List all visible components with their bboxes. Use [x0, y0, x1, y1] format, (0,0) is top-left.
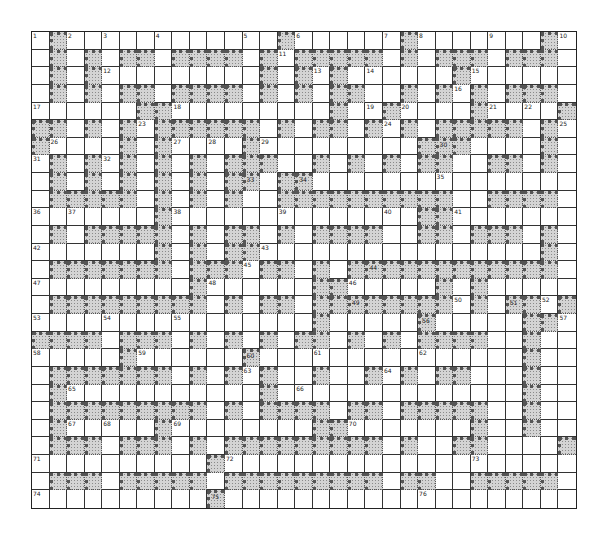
grid-cell[interactable] [172, 67, 190, 85]
grid-cell[interactable] [190, 208, 208, 226]
grid-cell[interactable] [506, 332, 524, 350]
grid-cell[interactable] [506, 490, 524, 508]
grid-cell[interactable] [401, 490, 419, 508]
grid-cell[interactable] [401, 314, 419, 332]
grid-cell[interactable] [155, 50, 173, 68]
grid-cell[interactable] [32, 173, 50, 191]
grid-cell[interactable] [207, 244, 225, 262]
grid-cell[interactable]: 11 [278, 50, 296, 68]
grid-cell[interactable] [453, 420, 471, 438]
grid-cell[interactable] [348, 385, 366, 403]
grid-cell[interactable] [225, 314, 243, 332]
grid-cell[interactable] [488, 490, 506, 508]
grid-cell[interactable] [295, 420, 313, 438]
grid-cell[interactable] [155, 67, 173, 85]
grid-cell[interactable] [85, 385, 103, 403]
grid-cell[interactable] [558, 490, 576, 508]
grid-cell[interactable] [383, 420, 401, 438]
grid-cell[interactable] [488, 402, 506, 420]
grid-cell[interactable] [67, 67, 85, 85]
grid-cell[interactable] [436, 349, 454, 367]
grid-cell[interactable] [488, 385, 506, 403]
grid-cell[interactable] [506, 208, 524, 226]
grid-cell[interactable]: 46 [348, 279, 366, 297]
grid-cell[interactable]: 73 [471, 455, 489, 473]
grid-cell[interactable] [225, 349, 243, 367]
grid-cell[interactable] [541, 173, 559, 191]
grid-cell[interactable]: 52 [541, 296, 559, 314]
grid-cell[interactable] [155, 85, 173, 103]
grid-cell[interactable] [32, 420, 50, 438]
grid-cell[interactable]: 35 [436, 173, 454, 191]
grid-cell[interactable] [67, 279, 85, 297]
grid-cell[interactable] [453, 314, 471, 332]
grid-cell[interactable] [558, 67, 576, 85]
grid-cell[interactable] [67, 226, 85, 244]
grid-cell[interactable] [102, 120, 120, 138]
grid-cell[interactable] [348, 455, 366, 473]
grid-cell[interactable] [102, 332, 120, 350]
grid-cell[interactable] [295, 120, 313, 138]
grid-cell[interactable] [348, 103, 366, 121]
grid-cell[interactable] [243, 420, 261, 438]
grid-cell[interactable] [471, 208, 489, 226]
grid-cell[interactable] [260, 103, 278, 121]
grid-cell[interactable] [523, 155, 541, 173]
grid-cell[interactable]: 7 [383, 32, 401, 50]
grid-cell[interactable] [172, 349, 190, 367]
grid-cell[interactable] [418, 367, 436, 385]
grid-cell[interactable] [207, 173, 225, 191]
grid-cell[interactable] [453, 349, 471, 367]
grid-cell[interactable] [471, 244, 489, 262]
grid-cell[interactable] [330, 385, 348, 403]
grid-cell[interactable] [523, 173, 541, 191]
grid-cell[interactable] [523, 490, 541, 508]
grid-cell[interactable] [137, 420, 155, 438]
grid-cell[interactable]: 20 [401, 103, 419, 121]
grid-cell[interactable] [541, 385, 559, 403]
grid-cell[interactable] [67, 490, 85, 508]
grid-cell[interactable] [278, 420, 296, 438]
grid-cell[interactable] [401, 244, 419, 262]
grid-cell[interactable] [278, 332, 296, 350]
grid-cell[interactable] [102, 385, 120, 403]
grid-cell[interactable] [558, 279, 576, 297]
grid-cell[interactable]: 3 [102, 32, 120, 50]
grid-cell[interactable] [155, 349, 173, 367]
grid-cell[interactable] [50, 208, 68, 226]
grid-cell[interactable] [488, 50, 506, 68]
grid-cell[interactable] [365, 349, 383, 367]
grid-cell[interactable] [260, 191, 278, 209]
grid-cell[interactable] [278, 367, 296, 385]
grid-cell[interactable] [295, 155, 313, 173]
grid-cell[interactable] [102, 103, 120, 121]
grid-cell[interactable] [137, 385, 155, 403]
grid-cell[interactable]: 32 [102, 155, 120, 173]
grid-cell[interactable] [453, 173, 471, 191]
grid-cell[interactable] [365, 314, 383, 332]
grid-cell[interactable] [260, 173, 278, 191]
grid-cell[interactable] [313, 103, 331, 121]
grid-cell[interactable] [85, 420, 103, 438]
grid-cell[interactable] [120, 67, 138, 85]
grid-cell[interactable]: 57 [558, 314, 576, 332]
grid-cell[interactable] [471, 173, 489, 191]
grid-cell[interactable]: 5 [243, 32, 261, 50]
grid-cell[interactable] [102, 455, 120, 473]
grid-cell[interactable] [278, 349, 296, 367]
grid-cell[interactable] [471, 32, 489, 50]
grid-cell[interactable] [418, 50, 436, 68]
grid-cell[interactable] [120, 455, 138, 473]
grid-cell[interactable] [436, 490, 454, 508]
grid-cell[interactable] [278, 103, 296, 121]
grid-cell[interactable] [436, 244, 454, 262]
grid-cell[interactable] [418, 244, 436, 262]
grid-cell[interactable] [558, 261, 576, 279]
grid-cell[interactable] [295, 103, 313, 121]
grid-cell[interactable] [471, 314, 489, 332]
grid-cell[interactable] [85, 138, 103, 156]
grid-cell[interactable]: 71 [32, 455, 50, 473]
grid-cell[interactable] [137, 455, 155, 473]
grid-cell[interactable] [506, 367, 524, 385]
grid-cell[interactable] [120, 279, 138, 297]
